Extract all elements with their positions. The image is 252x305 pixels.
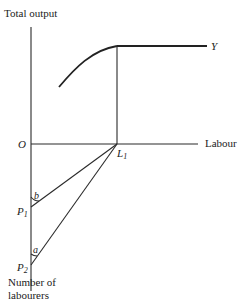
line-l1-p1 xyxy=(31,144,117,207)
angle-a-label: a xyxy=(33,244,38,255)
x-axis-label: Labour xyxy=(205,137,237,149)
lower-axis-label-line2: labourers xyxy=(8,289,49,301)
p1-label: P1 xyxy=(16,205,28,219)
p2-label: P2 xyxy=(16,261,28,275)
output-curve xyxy=(59,46,117,87)
line-l1-p2 xyxy=(31,144,117,265)
labour-output-diagram: Total output Labour O Y L1 P1 P2 b a Num… xyxy=(0,0,252,305)
angle-b-label: b xyxy=(34,190,39,201)
y-axis-label: Total output xyxy=(4,7,57,19)
curve-y-label: Y xyxy=(211,40,219,52)
origin-label: O xyxy=(18,138,26,150)
lower-axis-label-line1: Number of xyxy=(8,276,56,288)
l1-label: L1 xyxy=(116,147,127,161)
